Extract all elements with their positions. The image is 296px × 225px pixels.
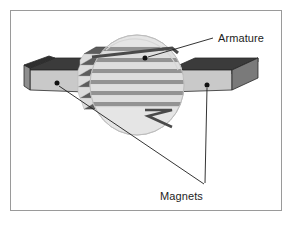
magnet-left-callout-dot [55, 81, 60, 86]
magnet-left-side-face [24, 65, 30, 90]
armature-callout-dot [143, 56, 148, 61]
magnet-right-callout-dot [205, 83, 210, 88]
magnet-right-leader-line [205, 88, 207, 183]
armature-glass-overlay [90, 35, 184, 135]
magnets-label: Magnets [160, 190, 203, 202]
diagram-canvas: Armature Magnets [0, 0, 296, 225]
armature-label: Armature [218, 32, 264, 44]
